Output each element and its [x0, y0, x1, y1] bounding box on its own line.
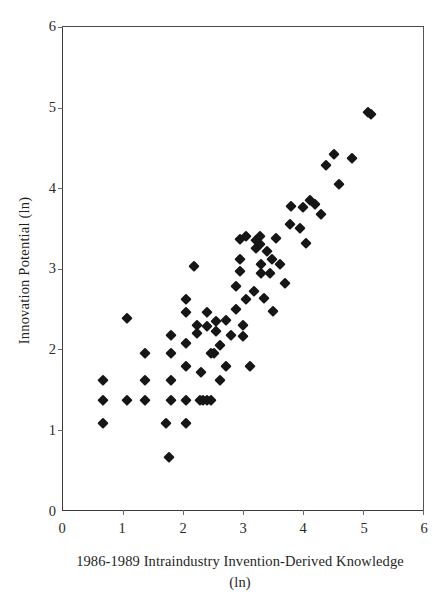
data-point — [209, 348, 220, 359]
data-point — [181, 394, 192, 405]
data-point — [188, 261, 199, 272]
data-point — [226, 329, 237, 340]
x-tick-label-6: 6 — [409, 521, 439, 536]
data-point — [166, 375, 177, 386]
data-point — [275, 258, 286, 269]
data-point — [286, 200, 297, 211]
data-point — [265, 267, 276, 278]
data-point — [262, 245, 273, 256]
data-point — [202, 394, 213, 405]
data-point — [166, 394, 177, 405]
data-point — [280, 278, 291, 289]
x-tick-mark — [363, 510, 364, 515]
data-point — [230, 281, 241, 292]
data-point — [301, 237, 312, 248]
y-tick-label-4: 4 — [30, 181, 56, 196]
data-point — [241, 231, 252, 242]
y-tick-mark — [58, 430, 63, 431]
data-point — [266, 253, 277, 264]
y-tick-label-0: 0 — [30, 504, 56, 519]
data-point — [271, 233, 282, 244]
x-tick-label-4: 4 — [288, 521, 318, 536]
data-point — [139, 375, 150, 386]
data-point — [305, 195, 316, 206]
x-axis-title-line1: 1986-1989 Intraindustry Invention-Derive… — [76, 553, 404, 569]
data-point — [298, 201, 309, 212]
data-point — [181, 361, 192, 372]
data-point — [238, 319, 249, 330]
scatter-plot-figure: Innovation Potential (ln) 6 5 4 3 2 1 0 … — [0, 0, 446, 604]
data-point — [221, 361, 232, 372]
data-point — [181, 294, 192, 305]
data-point — [320, 160, 331, 171]
data-point — [98, 418, 109, 429]
y-tick-label-5: 5 — [30, 100, 56, 115]
data-point — [161, 418, 172, 429]
y-tick-mark — [58, 108, 63, 109]
x-tick-label-3: 3 — [228, 521, 258, 536]
x-tick-mark — [123, 510, 124, 515]
data-point — [230, 303, 241, 314]
data-point — [334, 179, 345, 190]
data-point — [163, 451, 174, 462]
data-point — [194, 394, 205, 405]
plot-area — [62, 26, 424, 511]
x-tick-mark — [303, 510, 304, 515]
data-point — [121, 313, 132, 324]
y-tick-mark — [58, 188, 63, 189]
x-axis-title-line2: (ln) — [40, 572, 440, 593]
data-point — [256, 267, 267, 278]
y-tick-label-6: 6 — [30, 19, 56, 34]
data-point — [310, 199, 321, 210]
x-tick-mark — [243, 510, 244, 515]
y-tick-mark — [58, 349, 63, 350]
data-points-layer — [63, 27, 423, 510]
data-point — [215, 375, 226, 386]
y-tick-mark — [58, 269, 63, 270]
data-point — [241, 294, 252, 305]
data-point — [362, 106, 373, 117]
y-tick-label-2: 2 — [30, 342, 56, 357]
data-point — [206, 348, 217, 359]
data-point — [139, 348, 150, 359]
data-point — [259, 293, 270, 304]
data-point — [251, 235, 262, 246]
x-tick-mark — [183, 510, 184, 515]
y-tick-label-3: 3 — [30, 261, 56, 276]
data-point — [329, 149, 340, 160]
data-point — [211, 315, 222, 326]
x-tick-label-0: 0 — [47, 521, 77, 536]
data-point — [202, 321, 213, 332]
y-tick-label-1: 1 — [30, 423, 56, 438]
data-point — [347, 153, 358, 164]
data-point — [211, 326, 222, 337]
data-point — [205, 394, 216, 405]
data-point — [139, 394, 150, 405]
data-point — [181, 338, 192, 349]
data-point — [254, 239, 265, 250]
data-point — [221, 315, 232, 326]
y-tick-mark — [58, 27, 63, 28]
data-point — [316, 208, 327, 219]
data-point — [366, 109, 377, 120]
x-tick-label-5: 5 — [349, 521, 379, 536]
data-point — [166, 329, 177, 340]
data-point — [245, 361, 256, 372]
data-point — [268, 306, 279, 317]
data-point — [202, 307, 213, 318]
data-point — [248, 286, 259, 297]
data-point — [235, 266, 246, 277]
data-point — [235, 233, 246, 244]
data-point — [254, 231, 265, 242]
x-axis-title: 1986-1989 Intraindustry Invention-Derive… — [40, 551, 440, 593]
data-point — [238, 331, 249, 342]
data-point — [98, 375, 109, 386]
data-point — [198, 394, 209, 405]
data-point — [284, 219, 295, 230]
data-point — [251, 243, 262, 254]
data-point — [181, 307, 192, 318]
data-point — [295, 223, 306, 234]
data-point — [121, 394, 132, 405]
data-point — [215, 340, 226, 351]
data-point — [181, 418, 192, 429]
